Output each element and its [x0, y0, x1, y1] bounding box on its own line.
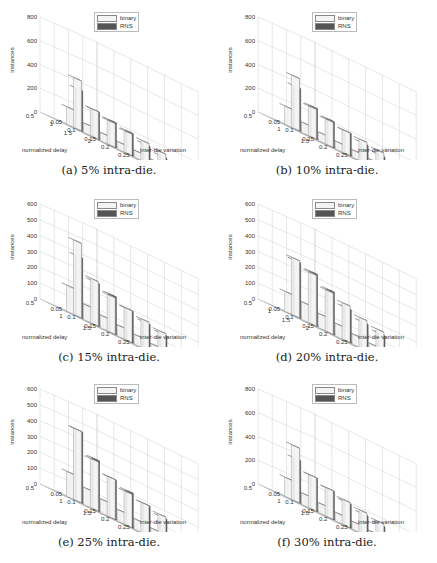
z-tick-label: 200: [27, 449, 38, 455]
z-axis-label: instances: [227, 47, 233, 72]
histogram-bar: [124, 307, 132, 342]
x-tick-label: 0.05: [50, 306, 62, 312]
legend-swatch-binary: [97, 15, 117, 22]
z-tick-label: 500: [245, 217, 256, 223]
z-tick-label: 500: [27, 402, 38, 408]
histogram-bar: [308, 474, 316, 511]
z-tick-label: 100: [27, 465, 38, 471]
chart-panel: 01002003004005006000.050.10.150.20.250.3…: [218, 187, 436, 372]
z-axis-label: instances: [9, 419, 15, 444]
x-tick-label: 0.25: [336, 152, 348, 158]
y-tick-label: 0.5: [26, 300, 35, 306]
z-tick-label: 500: [27, 217, 38, 223]
histogram-bar: [325, 290, 333, 335]
histogram-bar: [141, 502, 149, 532]
legend-item: RNS: [97, 394, 136, 402]
legend-label: RNS: [338, 394, 351, 402]
legend-item: binary: [315, 201, 354, 209]
z-tick-label: 800: [27, 14, 38, 20]
histogram-bar: [291, 75, 299, 131]
histogram-bar: [107, 294, 115, 334]
x-tick-label: 0.1: [67, 499, 76, 505]
x-tick-label: 0.05: [268, 119, 280, 125]
y-tick-label: 1.5: [301, 510, 310, 516]
y-tick-label: 1.5: [83, 510, 92, 516]
legend: binaryRNS: [312, 12, 357, 32]
x-tick-label: 0.25: [336, 339, 348, 345]
legend-swatch-rns: [315, 395, 335, 402]
z-tick-label: 200: [27, 85, 38, 91]
y-tick-label: 1: [277, 126, 281, 132]
z-tick-label: 300: [27, 249, 38, 255]
z-tick-label: 600: [27, 38, 38, 44]
z-axis-label: instances: [227, 234, 233, 259]
legend-label: binary: [338, 386, 354, 394]
y-tick-label: 0.5: [244, 300, 253, 306]
legend-item: RNS: [97, 22, 136, 30]
legend-label: binary: [338, 201, 354, 209]
x-tick-label: 0.2: [101, 516, 110, 522]
legend-swatch-binary: [315, 15, 335, 22]
z-tick-label: 400: [245, 233, 256, 239]
subfigure-caption: (e) 25% intra-die.: [0, 535, 218, 549]
x-axis-label: inter-die variation: [140, 519, 186, 525]
legend-swatch-rns: [97, 395, 117, 402]
histogram-bar: [308, 272, 316, 326]
x-tick-label: 0.05: [50, 491, 62, 497]
z-tick-label: 0: [34, 296, 38, 302]
histogram-bar: [73, 240, 81, 318]
x-axis-label: inter-die variation: [140, 147, 186, 153]
legend-item: RNS: [315, 22, 354, 30]
histogram-bar: [291, 257, 299, 318]
legend: binaryRNS: [94, 199, 139, 219]
histogram-bar: [124, 491, 132, 528]
legend-item: RNS: [315, 209, 354, 217]
legend-swatch-rns: [97, 23, 117, 30]
histogram-bar: [107, 476, 115, 519]
x-tick-label: 0.2: [319, 144, 328, 150]
histogram-bar: [141, 319, 149, 347]
z-tick-label: 600: [245, 410, 256, 416]
z-tick-label: 600: [27, 201, 38, 207]
y-tick-label: 1.5: [282, 317, 291, 323]
y-tick-label: 1.5: [301, 138, 310, 144]
y-axis-label: normalized delay: [240, 334, 285, 340]
subfigure-caption: (c) 15% intra-die.: [0, 350, 218, 364]
y-tick-label: 1: [59, 313, 63, 319]
histogram-bar: [73, 428, 81, 503]
x-tick-label: 0.1: [285, 499, 294, 505]
x-tick-label: 0.2: [101, 144, 110, 150]
legend-label: binary: [120, 14, 136, 22]
z-axis-label: instances: [9, 234, 15, 259]
x-tick-label: 0.2: [101, 331, 110, 337]
subfigure-caption: (b) 10% intra-die.: [218, 163, 436, 177]
histogram-bar: [308, 106, 316, 139]
legend-item: binary: [97, 14, 136, 22]
chart-panel: 01002003004005006000.050.10.150.20.250.3…: [0, 187, 218, 372]
x-tick-label: 0.2: [319, 331, 328, 337]
x-axis-label: inter-die variation: [358, 334, 404, 340]
legend-swatch-rns: [97, 210, 117, 217]
x-axis-label: inter-die variation: [140, 334, 186, 340]
x-tick-label: 0.05: [268, 491, 280, 497]
x-tick-label: 0.1: [285, 127, 294, 133]
y-axis-label: normalized delay: [22, 334, 67, 340]
legend-swatch-rns: [315, 23, 335, 30]
histogram-bar: [291, 445, 299, 503]
legend-item: RNS: [315, 394, 354, 402]
legend-label: binary: [120, 386, 136, 394]
y-tick-label: 0.5: [26, 113, 35, 119]
legend-label: RNS: [120, 209, 133, 217]
y-tick-label: 1.5: [83, 325, 92, 331]
histogram-bar: [90, 108, 98, 139]
subfigure-caption: (a) 5% intra-die.: [0, 163, 218, 177]
legend-label: RNS: [120, 22, 133, 30]
z-tick-label: 400: [27, 418, 38, 424]
z-tick-label: 0: [34, 109, 38, 115]
chart-panel: 02004006008000.050.10.150.20.250.321.510…: [0, 0, 218, 185]
z-tick-label: 400: [27, 62, 38, 68]
x-axis-label: inter-die variation: [358, 519, 404, 525]
y-tick-label: 1.5: [64, 130, 73, 136]
legend-label: RNS: [338, 209, 351, 217]
x-tick-label: 0.25: [118, 339, 130, 345]
